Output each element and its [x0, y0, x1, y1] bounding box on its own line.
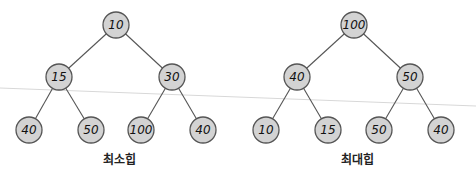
min-heap-node-right-right: 40 [190, 117, 216, 143]
max-heap-node-right-left: 50 [366, 117, 392, 143]
min-heap-node-left: 15 [46, 64, 72, 90]
max-heap-tree: 100 40 50 10 15 50 40 최대힙 [253, 12, 454, 167]
max-heap-node-left-right: 15 [315, 117, 341, 143]
node-value: 100 [130, 123, 153, 137]
heap-diagram: 10 15 30 40 50 100 40 최소힙 [0, 0, 476, 178]
node-value: 15 [320, 123, 335, 137]
min-heap-node-right: 30 [159, 64, 185, 90]
node-value: 10 [258, 123, 274, 137]
node-value: 40 [195, 123, 211, 137]
node-value: 40 [433, 123, 449, 137]
node-value: 30 [164, 70, 180, 84]
node-value: 10 [108, 18, 124, 32]
max-heap-node-right: 50 [397, 64, 423, 90]
node-value: 100 [343, 18, 366, 32]
max-heap-node-left-left: 10 [253, 117, 279, 143]
min-heap-caption: 최소힙 [103, 152, 136, 167]
node-value: 50 [83, 123, 99, 137]
max-heap-node-root: 100 [341, 12, 367, 38]
max-heap-node-left: 40 [284, 64, 310, 90]
min-heap-node-left-right: 50 [78, 117, 104, 143]
node-value: 40 [21, 123, 37, 137]
node-value: 15 [51, 70, 66, 84]
max-heap-caption: 최대힙 [341, 152, 374, 167]
min-heap-node-right-left: 100 [128, 117, 154, 143]
node-value: 50 [371, 123, 387, 137]
min-heap-node-root: 10 [103, 12, 129, 38]
node-value: 50 [402, 70, 418, 84]
node-value: 40 [289, 70, 305, 84]
min-heap-node-left-left: 40 [16, 117, 42, 143]
max-heap-node-right-right: 40 [428, 117, 454, 143]
